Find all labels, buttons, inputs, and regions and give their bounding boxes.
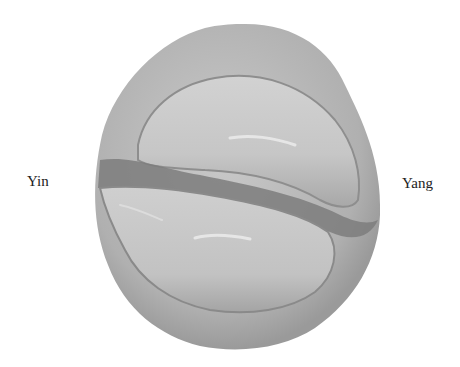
yang-label: Yang: [402, 175, 433, 192]
specimen-image: [90, 10, 390, 355]
figure: Yin Yang: [0, 0, 460, 367]
yin-label: Yin: [27, 173, 49, 190]
